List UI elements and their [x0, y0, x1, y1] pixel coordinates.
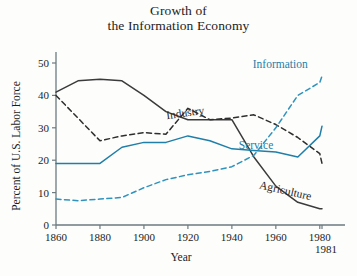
x-axis-tick-label: 1880 — [89, 231, 112, 243]
series-label-service: Service — [239, 139, 273, 151]
x-axis-tick-label: 1960 — [265, 231, 288, 243]
y-axis-tick-label: 0 — [44, 219, 50, 231]
x-axis-tick-label: 1860 — [45, 231, 68, 243]
y-axis-tick-label: 20 — [38, 154, 50, 166]
series-line-service — [56, 126, 322, 163]
x-axis-tick-label: 1940 — [221, 231, 244, 243]
y-axis-tick-label: 50 — [38, 57, 50, 69]
series-label-information: Information — [253, 58, 308, 70]
line-chart-plot: 0102030405018601880190019201940196019801… — [0, 0, 357, 276]
x-axis-tick-label: 1980 — [309, 231, 332, 243]
series-line-information — [56, 76, 322, 201]
y-axis-tick-label: 30 — [38, 122, 50, 134]
x-axis-title: Year — [170, 251, 191, 263]
x-axis-tick-label: 1920 — [177, 231, 200, 243]
y-axis-tick-label: 10 — [38, 187, 50, 199]
y-axis-tick-label: 40 — [38, 89, 50, 101]
chart-figure: Growth of the Information Economy Growth… — [0, 0, 357, 276]
series-label-agriculture: Agriculture — [258, 178, 313, 203]
y-axis-title: Percent of U.S. Labor Force — [10, 81, 22, 211]
x-axis-tick-label: 1900 — [133, 231, 156, 243]
x-axis-tick-label: 1981 — [315, 243, 337, 255]
